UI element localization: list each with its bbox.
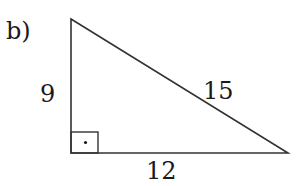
vertical-leg-label: 9	[40, 82, 55, 106]
triangle-outline	[71, 19, 288, 153]
hypotenuse-label: 15	[203, 79, 234, 103]
right-angle-dot	[84, 141, 87, 144]
horizontal-leg-label: 12	[146, 159, 177, 183]
figure-canvas: b) 9 15 12	[0, 0, 299, 186]
part-label: b)	[6, 19, 31, 43]
